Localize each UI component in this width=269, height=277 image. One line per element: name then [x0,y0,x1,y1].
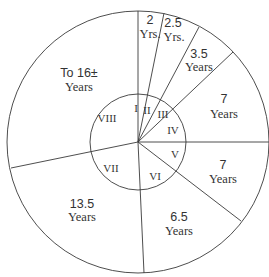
label-ii-unit: Yrs. [163,30,184,44]
numeral-i: I [134,102,138,114]
sector-diagram: I II III IV V VI VII VIII 2 Yrs. 2.5 Yrs… [0,0,269,277]
label-iv-unit: Years [210,107,238,121]
label-viii-unit: Years [65,80,93,94]
divider-vii-viii [11,142,138,168]
numeral-vii: VII [103,162,119,174]
numeral-ii: II [143,104,151,116]
label-iii-value: 3.5 [190,47,207,61]
label-iv-value: 7 [221,92,228,106]
label-vii-value: 13.5 [70,197,94,211]
numeral-iii: III [158,108,169,120]
numeral-v: V [171,148,179,160]
label-vi-unit: Years [165,224,193,238]
label-v-value: 7 [220,158,227,172]
divider-vi-vii [138,142,144,273]
label-i-value: 2 [147,13,154,27]
label-vi-value: 6.5 [170,210,187,224]
sector-dividers [11,11,269,273]
label-v-unit: Years [209,172,237,186]
numeral-vi: VI [149,170,161,182]
label-ii-value: 2.5 [164,16,181,30]
label-viii-value: To 16± [60,66,98,80]
label-vii-unit: Years [68,210,96,224]
label-iii-unit: Years [185,60,213,74]
label-i-unit: Yrs. [139,27,160,41]
numeral-iv: IV [167,124,179,136]
sector-labels: 2 Yrs. 2.5 Yrs. 3.5 Years 7 Years 7 Year… [60,13,238,238]
numeral-viii: VIII [98,112,117,124]
